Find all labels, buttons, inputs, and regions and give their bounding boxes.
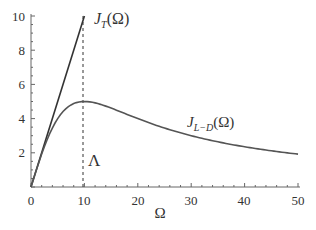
axes: [31, 14, 300, 187]
x-ticks: [31, 183, 298, 187]
x-tick-label: 40: [238, 193, 251, 208]
x-tick-label: 10: [78, 193, 91, 208]
jld-label: JL−D(Ω): [187, 114, 234, 133]
lambda-label: Λ: [88, 151, 101, 170]
y-ticks: [31, 16, 35, 187]
x-axis-label: Ω: [154, 205, 165, 221]
x-tick-label: 0: [28, 193, 35, 208]
x-tick-labels: 0 10 20 30 40 50: [28, 193, 305, 208]
x-tick-label: 50: [292, 193, 305, 208]
y-tick-label: 6: [19, 77, 26, 92]
y-tick-label: 4: [19, 111, 26, 126]
y-tick-label: 8: [19, 43, 26, 58]
x-tick-label: 30: [185, 193, 198, 208]
y-tick-labels: 2 4 6 8 10: [12, 9, 26, 160]
series-jld-curve: [31, 102, 298, 188]
jt-label: JT(Ω): [94, 10, 129, 30]
chart: 0 10 20 30 40 50 2 4 6 8 10 JT(Ω) JL−D(Ω…: [0, 0, 316, 230]
x-tick-label: 20: [132, 193, 145, 208]
y-tick-label: 2: [19, 145, 26, 160]
y-tick-label: 10: [12, 9, 25, 24]
